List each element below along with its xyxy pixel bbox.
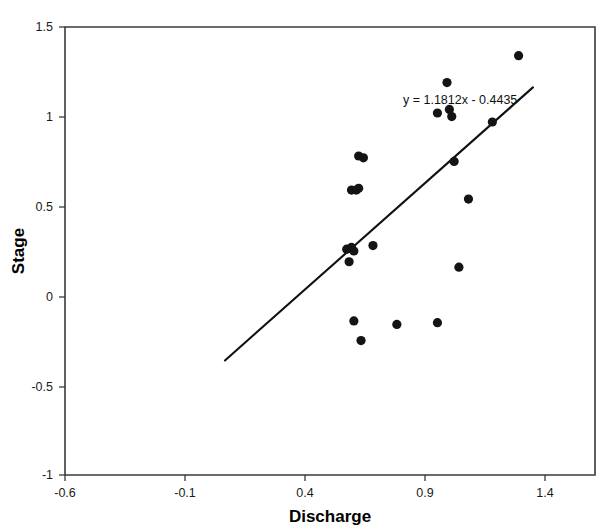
y-tick-label-0.5: 0.5 [36, 200, 53, 214]
y-tick-label-neg0.5: -0.5 [31, 380, 53, 394]
scatter-plot-canvas: 1.5 1 0.5 0 -0.5 -1 -0.6 -0.1 0.4 0.9 1.… [0, 0, 606, 530]
x-tick-label-neg0.1: -0.1 [174, 486, 196, 500]
data-point [433, 108, 442, 117]
data-point [354, 184, 363, 193]
y-axis-title: Stage [9, 228, 28, 274]
x-tick-label-0.4: 0.4 [296, 486, 313, 500]
data-point [368, 241, 377, 250]
y-axis-ticks: 1.5 1 0.5 0 -0.5 -1 [31, 20, 65, 482]
data-point [359, 153, 368, 162]
data-point [514, 51, 523, 60]
trend-line [225, 87, 533, 360]
x-tick-label-0.9: 0.9 [416, 486, 433, 500]
data-point [433, 318, 442, 327]
data-point [442, 78, 451, 87]
y-tick-label-1.5: 1.5 [36, 20, 53, 34]
trend-line-group [225, 87, 533, 360]
data-point [345, 257, 354, 266]
y-tick-label-neg1: -1 [42, 468, 53, 482]
x-tick-label-neg0.6: -0.6 [54, 486, 76, 500]
x-tick-label-1.4: 1.4 [536, 486, 553, 500]
x-axis-ticks: -0.6 -0.1 0.4 0.9 1.4 [54, 475, 554, 500]
x-axis-title: Discharge [289, 507, 371, 526]
data-point [392, 320, 401, 329]
y-tick-label-0: 0 [46, 290, 53, 304]
data-point [454, 263, 463, 272]
data-point [349, 316, 358, 325]
trendline-equation-label: y = 1.1812x - 0.4435 [403, 93, 517, 107]
data-point [450, 157, 459, 166]
data-point [356, 336, 365, 345]
chart-figure: 1.5 1 0.5 0 -0.5 -1 -0.6 -0.1 0.4 0.9 1.… [0, 0, 606, 530]
data-point [488, 117, 497, 126]
data-point [464, 194, 473, 203]
y-tick-label-1: 1 [46, 110, 53, 124]
data-point [447, 112, 456, 121]
data-point [349, 246, 358, 255]
